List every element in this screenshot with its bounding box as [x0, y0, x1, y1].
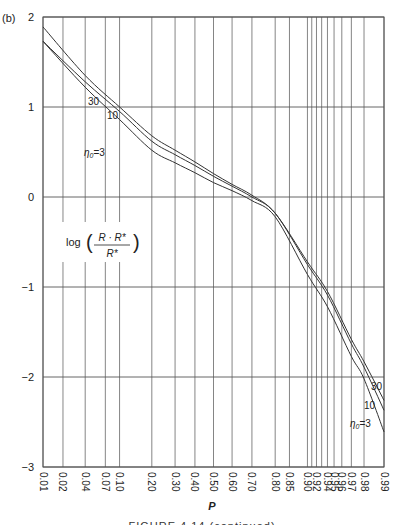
- x-axis-tick-labels: 0.010.020.040.070.100.200.300.400.500.60…: [38, 472, 390, 492]
- x-tick-label: 0.96: [336, 472, 347, 492]
- x-tick-label: 0.30: [170, 472, 181, 492]
- x-tick-label: 0.02: [57, 472, 68, 492]
- y-tick-label: 0: [28, 191, 34, 203]
- x-tick-label: 0.70: [246, 472, 257, 492]
- x-tick-label: 0.40: [189, 472, 200, 492]
- y-tick-label: −3: [21, 461, 34, 473]
- panel-label: (b): [2, 12, 15, 24]
- figure-caption: FIGURE 4.14 (continued): [0, 516, 404, 525]
- x-tick-label: 0.85: [284, 472, 295, 492]
- chart: 210−1−2−3 0.010.020.040.070.100.200.300.…: [0, 0, 404, 525]
- x-tick-label: 0.07: [100, 472, 111, 492]
- curve-label-10-upper: 10: [107, 110, 119, 121]
- y-tick-label: 2: [28, 11, 34, 23]
- y-axis-tick-labels: 210−1−2−3: [21, 11, 34, 473]
- y-tick-label: −2: [21, 371, 34, 383]
- x-tick-label: 0.98: [359, 472, 370, 492]
- x-tick-label: 0.99: [379, 472, 390, 492]
- curve-label-30-lower: 30: [371, 381, 383, 392]
- x-tick-label: 0.50: [208, 472, 219, 492]
- x-tick-label: 0.01: [38, 472, 49, 492]
- svg-text:log: log: [66, 236, 81, 248]
- y-tick-label: 1: [28, 101, 34, 113]
- svg-text:R · R*: R · R*: [98, 232, 126, 243]
- y-quantity-annotation: log ( R · R* R* ): [60, 222, 148, 262]
- y-tick-label: −1: [21, 281, 34, 293]
- x-tick-label: 0.80: [270, 472, 281, 492]
- x-tick-label: 0.10: [114, 472, 125, 492]
- curve-label-10-lower: 10: [364, 400, 376, 411]
- x-axis-label: P: [208, 500, 216, 512]
- svg-text:(: (: [86, 231, 93, 253]
- curve-label-3-lower: η0=3: [350, 418, 371, 430]
- x-tick-label: 0.97: [346, 472, 357, 492]
- curve-label-30-upper: 30: [88, 96, 100, 107]
- x-tick-label: 0.92: [311, 472, 322, 492]
- x-tick-label: 0.20: [146, 472, 157, 492]
- x-tick-label: 0.60: [227, 472, 238, 492]
- svg-text:R*: R*: [106, 248, 118, 259]
- curve-label-3-upper: η0=3: [84, 147, 105, 159]
- svg-text:): ): [133, 231, 140, 253]
- x-tick-label: 0.04: [80, 472, 91, 492]
